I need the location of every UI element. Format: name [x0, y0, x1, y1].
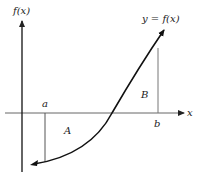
point-a-label: a	[42, 98, 48, 109]
y-axis-label: f(x)	[12, 5, 30, 16]
point-b-label: b	[154, 118, 160, 129]
curve-label: y = f(x)	[141, 13, 180, 24]
region-b-label: B	[140, 89, 148, 100]
x-axis-label: x	[187, 107, 193, 118]
region-a-label: A	[63, 125, 71, 136]
curve-start-arrow-icon	[30, 160, 38, 166]
area-under-curve-diagram: f(x) x y = f(x) a b A B	[0, 0, 198, 180]
